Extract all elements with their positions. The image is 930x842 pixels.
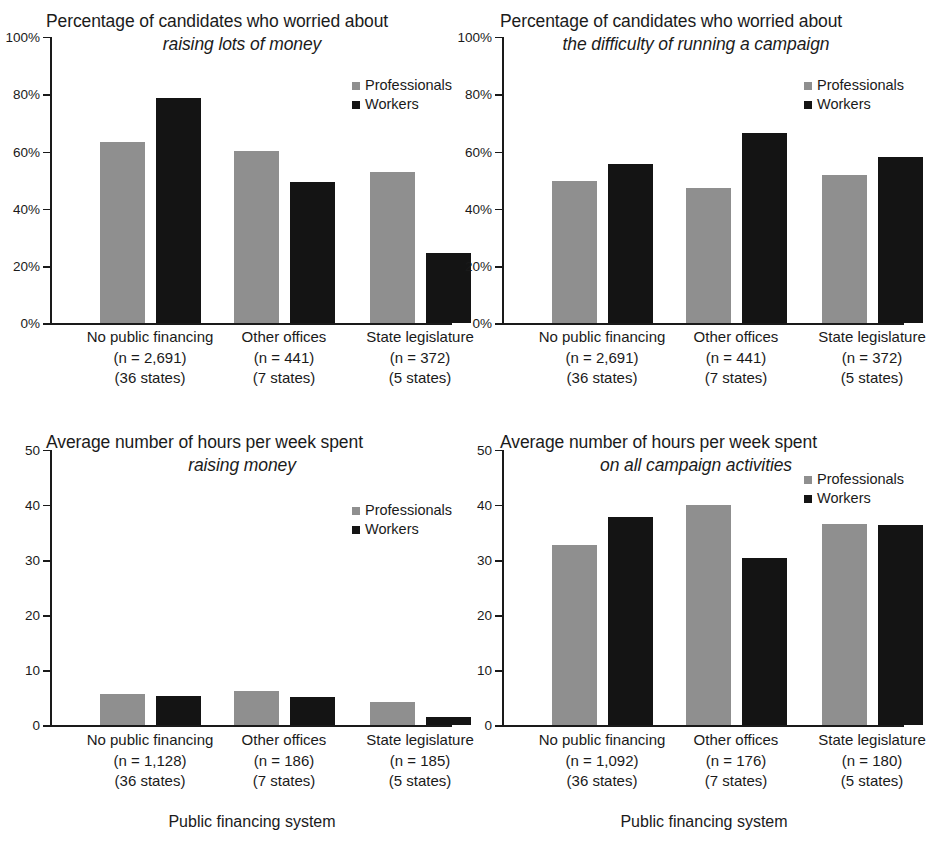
bar-professionals (822, 175, 867, 323)
y-tick-mark (43, 266, 50, 267)
bar-professionals (100, 694, 145, 725)
chart-title-line1: Average number of hours per week spent (500, 432, 817, 452)
chart-panel-bottom-right: Average number of hours per week spent o… (452, 421, 904, 842)
legend-label-workers: Workers (817, 489, 871, 508)
y-tick-label: 0 (484, 718, 492, 733)
bar-professionals (234, 151, 279, 323)
x-category-sample-size: (n = 180) (772, 751, 930, 772)
legend-item-professionals: Professionals (352, 76, 452, 95)
legend-swatch-professionals-icon (804, 476, 812, 484)
y-tick-label: 10 (25, 663, 40, 678)
y-tick-mark (43, 450, 50, 451)
y-tick-mark (495, 505, 502, 506)
y-tick-mark (43, 670, 50, 671)
y-tick-label: 20 (477, 608, 492, 623)
bar-workers (608, 517, 653, 725)
bar-workers (608, 164, 653, 323)
legend: Professionals Workers (352, 501, 452, 539)
legend-item-professionals: Professionals (804, 76, 904, 95)
y-axis (50, 450, 52, 727)
x-category-name: Other offices (694, 731, 779, 748)
y-tick-mark (43, 615, 50, 616)
bar-workers (742, 133, 787, 323)
bar-workers (290, 182, 335, 324)
x-category-label: State legislature(n = 180)(5 states) (772, 730, 930, 792)
y-tick-mark (495, 266, 502, 267)
y-tick-label: 10 (477, 663, 492, 678)
bar-professionals (100, 142, 145, 324)
bar-workers (878, 157, 923, 324)
legend: Professionals Workers (804, 76, 904, 114)
category-labels: No public financing(n = 1,128)(36 states… (50, 730, 454, 802)
legend-swatch-workers-icon (804, 495, 812, 503)
x-category-label: State legislature(n = 372)(5 states) (772, 327, 930, 389)
legend-label-professionals: Professionals (365, 501, 452, 520)
y-tick-label: 40 (477, 498, 492, 513)
legend-label-professionals: Professionals (817, 76, 904, 95)
y-tick-mark (495, 323, 502, 324)
y-tick-label: 20 (25, 608, 40, 623)
x-axis (502, 725, 904, 727)
y-tick-mark (495, 37, 502, 38)
y-tick-label: 0% (20, 316, 40, 331)
chart-panel-bottom-left: Average number of hours per week spent r… (0, 421, 452, 842)
chart-panel-top-left: Percentage of candidates who worried abo… (0, 0, 452, 421)
bar-professionals (552, 181, 597, 323)
legend-label-workers: Workers (365, 520, 419, 539)
y-tick-label: 30 (477, 553, 492, 568)
legend-swatch-professionals-icon (804, 82, 812, 90)
bar-professionals (686, 505, 731, 725)
legend-label-workers: Workers (817, 95, 871, 114)
bar-professionals (686, 188, 731, 323)
y-tick-label: 0 (32, 718, 40, 733)
x-axis (50, 725, 452, 727)
y-tick-mark (43, 323, 50, 324)
category-labels: No public financing(n = 1,092)(36 states… (502, 730, 906, 802)
bar-professionals (552, 545, 597, 725)
legend-item-workers: Workers (804, 95, 904, 114)
y-tick-label: 100% (457, 30, 492, 45)
y-tick-label: 30 (25, 553, 40, 568)
bar-workers (878, 525, 923, 725)
y-tick-mark (495, 209, 502, 210)
y-tick-mark (43, 505, 50, 506)
x-category-name: State legislature (818, 328, 926, 345)
legend-label-professionals: Professionals (817, 470, 904, 489)
category-labels: No public financing(n = 2,691)(36 states… (502, 327, 906, 399)
y-tick-mark (495, 670, 502, 671)
y-tick-label: 40 (25, 498, 40, 513)
y-tick-label: 80% (465, 87, 492, 102)
y-tick-mark (43, 94, 50, 95)
y-axis (50, 37, 52, 325)
x-category-name: State legislature (818, 731, 926, 748)
chart-title-line1: Average number of hours per week spent (46, 432, 363, 452)
bar-workers (290, 697, 335, 726)
chart-title-line1: Percentage of candidates who worried abo… (46, 11, 388, 31)
legend-item-professionals: Professionals (804, 470, 904, 489)
x-category-states: (5 states) (772, 368, 930, 389)
y-tick-mark (43, 725, 50, 726)
y-tick-label: 0% (472, 316, 492, 331)
chart-title-line1: Percentage of candidates who worried abo… (500, 11, 842, 31)
y-tick-mark (495, 615, 502, 616)
legend-label-workers: Workers (365, 95, 419, 114)
x-category-states: (5 states) (772, 771, 930, 792)
x-category-name: Other offices (242, 328, 327, 345)
y-axis (502, 37, 504, 325)
x-category-name: Other offices (242, 731, 327, 748)
legend-swatch-workers-icon (352, 101, 360, 109)
bar-professionals (822, 524, 867, 726)
x-axis-title: Public financing system (50, 813, 454, 831)
legend-swatch-professionals-icon (352, 82, 360, 90)
bar-workers (156, 98, 201, 324)
legend-item-workers: Workers (804, 489, 904, 508)
chart-panel-top-right: Percentage of candidates who worried abo… (452, 0, 904, 421)
y-tick-label: 20% (13, 259, 40, 274)
y-tick-mark (43, 152, 50, 153)
y-tick-mark (495, 450, 502, 451)
y-tick-mark (43, 37, 50, 38)
y-tick-mark (43, 560, 50, 561)
y-tick-label: 50 (477, 443, 492, 458)
y-tick-mark (495, 152, 502, 153)
